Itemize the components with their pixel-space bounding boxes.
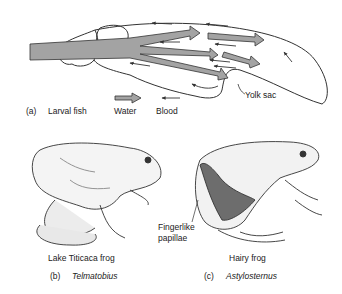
panel-c-genus: Astylosternus [226,271,277,281]
panel-b-common-name: Lake Titicaca frog [48,253,115,263]
panel-c-letter: (c) [204,271,214,281]
hairy-frog-drawing [192,142,322,242]
lake-titicaca-frog-drawing [32,143,161,245]
frog-illustrations [0,0,342,294]
papillae-label-line1: Fingerlike [158,222,195,232]
papillae-label-line2: papillae [158,233,187,243]
panel-b-genus: Telmatobius [72,271,118,281]
panel-b-letter: (b) [50,271,60,281]
panel-c-common-name: Hairy frog [229,253,266,263]
